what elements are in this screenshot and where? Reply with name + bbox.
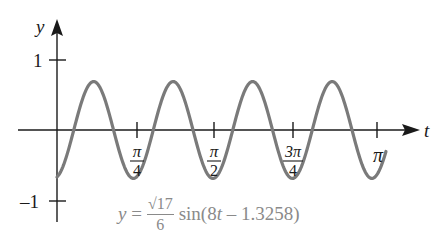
equation-lhs-y: y (118, 203, 126, 225)
y-tick-label-1: 1 (33, 50, 43, 71)
y-axis-label: y (34, 16, 45, 37)
svg-text:4: 4 (133, 162, 141, 179)
coefficient-numerator: √17 (147, 196, 174, 215)
t-axis-label: t (424, 120, 430, 141)
x-tick-label-pi: π (373, 144, 384, 166)
equation-equals: = (126, 203, 141, 225)
svg-text:3π: 3π (284, 143, 302, 160)
svg-text:4: 4 (289, 162, 297, 179)
equation-sin-prefix: sin(8 (179, 203, 217, 225)
svg-text:2: 2 (210, 162, 218, 179)
coefficient-denominator: 6 (156, 215, 164, 233)
equation-label: y = √17 6 sin(8t – 1.3258) (118, 194, 300, 234)
y-tick-label-minus-1: –1 (19, 191, 39, 212)
x-tick-label-pi-over-4: π 4 (130, 142, 144, 179)
svg-text:π: π (133, 142, 142, 161)
equation-coefficient: √17 6 (147, 196, 174, 233)
equation-sin-suffix: – 1.3258) (222, 203, 300, 225)
svg-text:π: π (210, 142, 219, 161)
